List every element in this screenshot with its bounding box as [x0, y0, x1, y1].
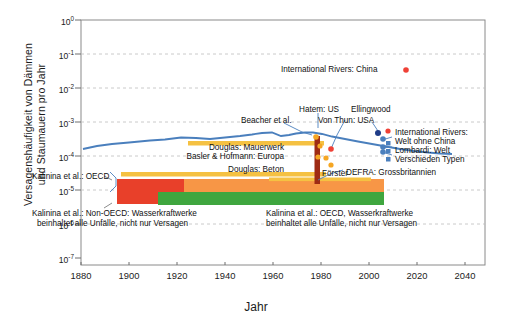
annotation-verschieden-typen: Verschieden Typen — [395, 155, 465, 165]
legend-marker-lombardi — [386, 141, 391, 146]
annotation-beacher: Beacher et al. — [241, 116, 292, 126]
annotation-kalinina-nonoecd-l1: Kalinina et al.: Non-OECD: Wasserkraftwe… — [32, 209, 197, 219]
annotation-foerster: Förster — [322, 169, 348, 179]
point-verschieden-typen — [380, 149, 386, 155]
point-ellingwood — [375, 130, 381, 136]
annotation-kalinina-oecd-top: Kalinina et al.: OECD — [32, 172, 109, 182]
annotation-defra: DEFRA: Grossbritannien — [346, 168, 436, 178]
point-lombardi-1 — [380, 136, 386, 142]
annotation-basler-hofmann: Basler & Hofmann: Europa — [158, 152, 284, 162]
legend-marker-intl-rivers-welt — [385, 128, 390, 133]
point-von-thun-usa-1 — [328, 146, 334, 152]
annotation-international-rivers-china: International Rivers: China — [281, 65, 377, 75]
annotation-kalinina-nonoecd-l2: beinhaltet alle Unfälle, nicht nur Versa… — [37, 219, 188, 229]
annotation-kalinina-oecd-l2: beinhaltet alle Unfälle, nicht nur Versa… — [266, 219, 417, 229]
point-hatem-us-2 — [315, 154, 320, 159]
bar-foerster — [315, 136, 321, 184]
annotation-hatem-us: Hatem: US — [299, 105, 339, 115]
chart-figure: Versagenshäufigkeit von Dämmen und Staum… — [0, 0, 512, 325]
legend-marker-verschieden-typen — [386, 149, 391, 154]
annotation-ellingwood: Ellingwood — [351, 105, 391, 115]
annotation-kalinina-oecd-l1: Kalinina et al.: OECD, Wasserkraftwerke — [266, 209, 413, 219]
legend-marker-extra — [386, 157, 391, 162]
point-international-rivers-china — [403, 67, 409, 73]
point-beacher — [313, 134, 319, 140]
point-von-thun-usa-2 — [323, 155, 328, 160]
point-von-thun-usa-3 — [328, 162, 333, 167]
point-lombardi-2 — [380, 144, 386, 150]
annotation-douglas-beton: Douglas: Beton — [175, 165, 284, 175]
annotation-von-thun-usa: Von Thun: USA — [318, 116, 374, 126]
point-hatem-us-1 — [317, 143, 322, 148]
bar-kalinina-oecd-green — [158, 192, 384, 205]
